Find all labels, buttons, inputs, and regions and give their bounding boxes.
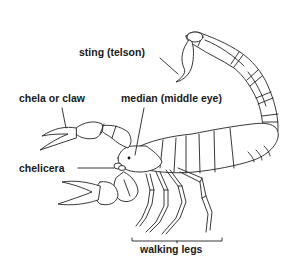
sting: [176, 32, 203, 82]
sting-leader-line: [160, 58, 178, 74]
scorpion-diagram: sting (telson) chela or claw median (mid…: [0, 0, 300, 273]
label-sting: sting (telson): [79, 47, 145, 58]
lower-claw: [58, 172, 138, 205]
upper-claw: [40, 122, 131, 150]
scorpion-drawing: [0, 0, 300, 273]
label-median-eye: median (middle eye): [121, 93, 222, 104]
label-walking-legs: walking legs: [140, 244, 202, 255]
chela-leader-line: [62, 108, 66, 128]
walking-legs-drawing: [136, 168, 212, 234]
label-chelicera: chelicera: [19, 163, 65, 174]
label-chela: chela or claw: [19, 93, 85, 104]
